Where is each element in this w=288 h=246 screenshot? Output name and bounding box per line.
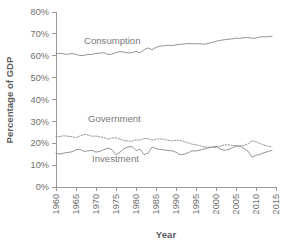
y-tick-label: 70%	[31, 29, 49, 39]
x-tick-label: 1970	[91, 194, 101, 214]
series-label-consumption: Consumption	[84, 35, 141, 46]
y-tick-label: 60%	[31, 51, 49, 61]
chart-container: 0%10%20%30%40%50%60%70%80% 1960196519701…	[0, 0, 288, 246]
x-axis-title: Year	[156, 229, 177, 240]
y-tick-label: 20%	[31, 138, 49, 148]
x-tick-label: 1975	[111, 194, 121, 214]
x-tick-label: 1960	[51, 194, 61, 214]
x-tick-label: 2005	[231, 194, 241, 214]
y-tick-label: 50%	[31, 73, 49, 83]
x-tick-label: 1990	[171, 194, 181, 214]
x-tick-label: 1980	[131, 194, 141, 214]
series-label-investment: Investment	[92, 153, 139, 164]
x-tick-label: 1985	[151, 194, 161, 214]
x-tick-label: 1965	[71, 194, 81, 214]
y-tick-label: 30%	[31, 117, 49, 127]
y-tick-label: 40%	[31, 95, 49, 105]
y-tick-label: 10%	[31, 160, 49, 170]
x-tick-label: 2000	[211, 194, 221, 214]
y-tick-label: 80%	[31, 7, 49, 17]
x-tick-label: 1995	[191, 194, 201, 214]
x-tick-label: 2015	[271, 194, 281, 214]
y-axis-title: Percentage of GDP	[4, 56, 15, 144]
series-label-government: Government	[88, 113, 141, 124]
y-tick-label: 0%	[36, 182, 49, 192]
x-tick-label: 2010	[251, 194, 261, 214]
line-chart: 0%10%20%30%40%50%60%70%80% 1960196519701…	[0, 0, 288, 246]
